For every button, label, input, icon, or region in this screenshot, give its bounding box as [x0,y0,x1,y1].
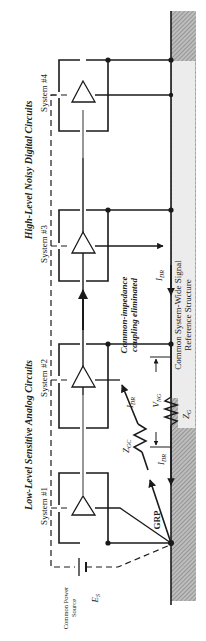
amplifier-icon-4 [72,81,95,102]
system-1-label: System #1 [39,487,49,525]
power-source-label-2: Source [70,599,77,617]
idr-label-ref: I DR [156,454,167,466]
svg-text:GC: GC [126,439,132,448]
system-2-label: System #2 [39,359,49,397]
power-dashed-line [51,95,170,567]
svg-text:DR: DR [130,397,136,406]
svg-text:S: S [95,594,101,597]
junction-dots [105,57,174,546]
vng-label: V NG [151,393,162,408]
coupling-label-2: coupling eliminated [129,278,139,352]
battery-icon [79,558,86,576]
zgc-label: Z GC [121,439,132,453]
svg-text:DR: DR [161,454,167,463]
system-4-label: System #4 [39,74,49,112]
amplifier-icon-2 [72,366,95,387]
coupling-label-1: Common-impedance [119,276,129,353]
digital-group-label: High-Level Noisy Digital Circuits [23,101,34,241]
analog-group-label: Low-Level Sensitive Analog Circuits [23,360,34,511]
es-label: E S [90,594,101,604]
system-3-label: System #3 [39,225,49,263]
idr-label-diag: I DR [125,397,136,409]
power-source-label-1: Common Power [62,586,69,629]
amplifier-icon-1 [72,496,95,515]
reference-label-1: Common System-Wide Signal [173,260,183,370]
reference-label-2: Reference Structure [183,279,193,351]
grp-label: GRP [152,510,162,530]
idr-label-top: I DR [154,270,165,282]
svg-text:G: G [186,409,192,414]
amplifier-icon-3 [72,232,95,253]
svg-text:NG: NG [156,393,162,403]
svg-text:DR: DR [159,270,165,279]
grounding-diagram: System #4 System #3 System #2 System #1 … [0,0,206,641]
